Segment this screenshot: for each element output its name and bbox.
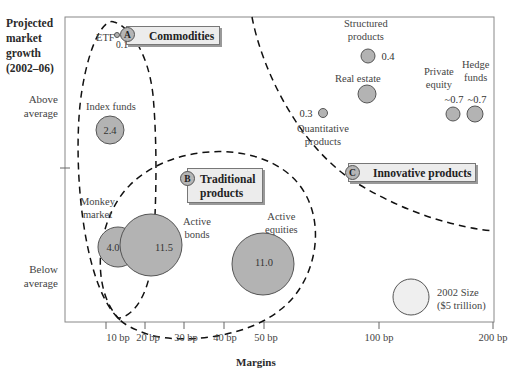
legend-line: 2002 Size (437, 286, 486, 299)
value-structured-products: 0.4 (381, 51, 394, 62)
value-active-equities: 11.0 (255, 257, 273, 268)
value-quantitative-products: 0.3 (299, 108, 312, 119)
label-quantitative-products: Quantitative products (297, 122, 349, 148)
label-line: market (80, 208, 115, 221)
y-axis-title: Projected market growth (2002–06) (6, 16, 64, 76)
y-label-above-average: Above average (2, 92, 58, 120)
label-monkey-market: Monkey market (80, 195, 115, 221)
legend-line: ($5 trillion) (437, 299, 486, 312)
x-tick-label: 10 bp (106, 332, 130, 343)
label-line: Active (265, 210, 298, 223)
bubble-legend-reference (393, 279, 429, 315)
x-tick-label: 20 bp (136, 332, 160, 343)
value-private-equity: ~0.7 (445, 94, 464, 105)
x-tick-label: 30 bp (174, 332, 198, 343)
y-title-line: growth (6, 46, 64, 61)
label-active-bonds: Active bonds (183, 215, 211, 241)
x-tick-label: 50 bp (254, 332, 278, 343)
label-private-equity: Private equity (424, 65, 454, 91)
group-a-badge: A (120, 27, 135, 42)
bubble-real-estate (358, 85, 376, 103)
group-c-label: Innovative products (373, 167, 472, 179)
x-tick-label: 100 bp (365, 332, 394, 343)
legend-size-reference: 2002 Size ($5 trillion) (437, 286, 486, 312)
label-line: Private (424, 65, 454, 78)
y-label-below-average: Below average (2, 262, 58, 290)
x-ticks (106, 322, 493, 329)
group-a-box: Commodities (126, 26, 220, 45)
y-title-line: market (6, 31, 64, 46)
bubble-private-equity (446, 107, 460, 121)
group-a-label: Commodities (149, 30, 214, 42)
group-b-box: Traditional products (187, 168, 263, 203)
label-line: Active (183, 215, 211, 228)
bubble-structured-products (361, 49, 375, 63)
group-b-label-line: products (200, 186, 255, 200)
x-tick-label: 200 bp (479, 332, 508, 343)
group-b-badge: B (180, 171, 195, 186)
label-line: products (297, 135, 349, 148)
y-title-line: (2002–06) (6, 61, 64, 76)
label-line: funds (462, 71, 489, 84)
label-real-estate: Real estate (335, 72, 381, 85)
label-active-equities: Active equities (265, 210, 298, 236)
y-label-line: Above (2, 92, 58, 106)
label-line: equities (265, 223, 298, 236)
label-structured-products: Structured products (344, 17, 388, 43)
group-c-badge: C (345, 165, 360, 180)
label-line: bonds (183, 228, 211, 241)
value-active-bonds: 11.5 (155, 242, 173, 253)
y-title-line: Projected (6, 16, 64, 31)
label-hedge-funds: Hedge funds (462, 58, 489, 84)
value-monkey-market: 4.0 (106, 242, 119, 253)
value-index-funds: 2.4 (103, 125, 116, 136)
label-etf: ETF (96, 31, 115, 44)
y-label-line: average (2, 276, 58, 290)
bubble-hedge-funds (467, 106, 483, 122)
group-c-box: Innovative products (348, 163, 476, 182)
label-line: equity (424, 78, 454, 91)
y-label-line: Below (2, 262, 58, 276)
x-axis-title: Margins (236, 356, 276, 368)
y-label-line: average (2, 106, 58, 120)
group-c-outline (252, 17, 494, 231)
bubble-etf (115, 33, 120, 38)
label-line: Structured (344, 17, 388, 30)
x-tick-label: 40 bp (213, 332, 237, 343)
group-b-label-line: Traditional (200, 172, 255, 186)
label-line: products (344, 30, 388, 43)
value-hedge-funds: ~0.7 (468, 94, 487, 105)
label-line: Hedge (462, 58, 489, 71)
label-index-funds: Index funds (86, 100, 136, 113)
bubble-quantitative-products (319, 109, 328, 118)
label-line: Monkey (80, 195, 115, 208)
label-line: Quantitative (297, 122, 349, 135)
